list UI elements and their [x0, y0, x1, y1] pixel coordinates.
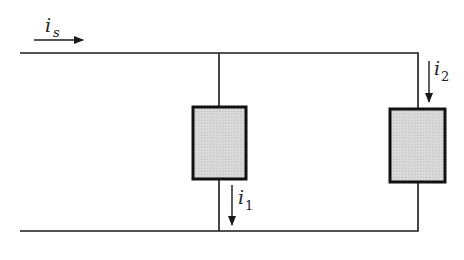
- source-current-label: i s: [45, 14, 60, 40]
- branch-2-current-subscript: 2: [441, 69, 449, 84]
- source-current-subscript: s: [53, 25, 60, 40]
- branch-1-current-label: i 1: [238, 186, 253, 213]
- circuit-element-1: [193, 107, 246, 179]
- circuit-element-2: [390, 109, 445, 182]
- circuit-diagram: i s i 1 i 2: [0, 0, 464, 260]
- branch-2-current-symbol: i: [434, 57, 440, 79]
- branch-2-current-label: i 2: [434, 57, 449, 84]
- source-current-symbol: i: [45, 14, 51, 36]
- branch-1-current-symbol: i: [238, 186, 244, 208]
- branch-1-current-subscript: 1: [245, 198, 253, 213]
